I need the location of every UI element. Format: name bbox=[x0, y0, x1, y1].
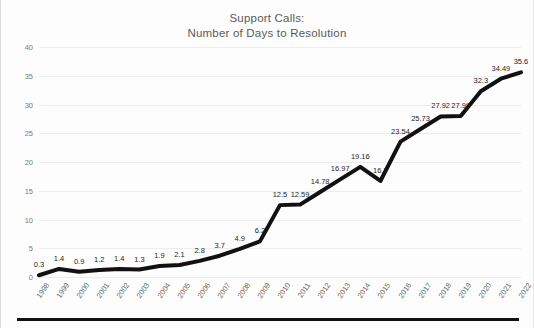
data-label-2021: 34.49 bbox=[492, 64, 511, 73]
data-label-2010: 12.5 bbox=[273, 190, 288, 199]
data-label-2015: 16.7 bbox=[373, 166, 388, 175]
y-axis-tick-20: 20 bbox=[25, 158, 33, 167]
x-axis-tick-2016: 2016 bbox=[396, 281, 413, 300]
y-axis-tick-25: 25 bbox=[25, 129, 33, 138]
gridline-0 bbox=[39, 277, 521, 278]
bottom-border-rule bbox=[17, 318, 519, 321]
data-label-2011: 12.59 bbox=[291, 190, 310, 199]
data-label-2014: 19.16 bbox=[351, 152, 370, 161]
x-axis-tick-2001: 2001 bbox=[95, 281, 112, 300]
x-axis-tick-2018: 2018 bbox=[436, 281, 453, 300]
data-label-2013: 16.97 bbox=[331, 164, 350, 173]
y-axis-tick-0: 0 bbox=[29, 273, 33, 282]
y-axis-tick-10: 10 bbox=[25, 215, 33, 224]
x-axis-tick-2006: 2006 bbox=[195, 281, 212, 300]
x-axis-tick-2011: 2011 bbox=[296, 281, 313, 299]
data-label-2000: 0.9 bbox=[74, 257, 84, 266]
data-label-2022: 35.6 bbox=[514, 57, 529, 66]
data-label-2003: 1.3 bbox=[134, 255, 144, 264]
data-label-2002: 1.4 bbox=[114, 254, 124, 263]
data-label-2005: 2.1 bbox=[174, 250, 184, 259]
data-label-2009: 6.2 bbox=[255, 226, 265, 235]
x-axis-tick-2021: 2021 bbox=[496, 281, 513, 300]
data-label-2001: 1.2 bbox=[94, 255, 104, 264]
data-label-2019: 27.99 bbox=[451, 101, 470, 110]
y-axis-tick-15: 15 bbox=[25, 186, 33, 195]
data-label-2006: 2.8 bbox=[194, 246, 204, 255]
chart-title-line-2: Number of Days to Resolution bbox=[1, 26, 533, 41]
y-axis-tick-30: 30 bbox=[25, 100, 33, 109]
x-axis-tick-2013: 2013 bbox=[336, 281, 353, 300]
x-axis-tick-2010: 2010 bbox=[275, 281, 292, 300]
chart-title-line-1: Support Calls: bbox=[1, 11, 533, 26]
x-axis-tick-2020: 2020 bbox=[476, 281, 493, 300]
data-label-2018: 27.92 bbox=[431, 101, 450, 110]
data-label-2016: 23.54 bbox=[391, 127, 410, 136]
x-axis-tick-2015: 2015 bbox=[376, 281, 393, 300]
y-axis-tick-35: 35 bbox=[25, 71, 33, 80]
data-label-1998: 0.3 bbox=[34, 260, 44, 269]
data-label-2017: 25.73 bbox=[411, 114, 430, 123]
data-label-2020: 32.3 bbox=[474, 76, 489, 85]
data-label-2012: 14.78 bbox=[311, 177, 330, 186]
data-label-2004: 1.9 bbox=[154, 251, 164, 260]
x-axis-tick-2014: 2014 bbox=[356, 281, 373, 300]
line-series bbox=[39, 47, 521, 277]
x-axis-tick-2002: 2002 bbox=[115, 281, 132, 300]
data-label-2008: 4.9 bbox=[235, 234, 245, 243]
x-axis-tick-1998: 1998 bbox=[34, 281, 51, 300]
y-axis-tick-5: 5 bbox=[29, 244, 33, 253]
x-axis-tick-2000: 2000 bbox=[75, 281, 92, 300]
x-axis-tick-2012: 2012 bbox=[316, 281, 333, 300]
x-axis-tick-2022: 2022 bbox=[516, 281, 533, 300]
x-axis-tick-2017: 2017 bbox=[416, 281, 433, 300]
data-label-1999: 1.4 bbox=[54, 254, 64, 263]
x-axis-tick-2019: 2019 bbox=[456, 281, 473, 300]
x-axis-tick-2004: 2004 bbox=[155, 281, 172, 300]
x-axis-tick-1999: 1999 bbox=[55, 281, 72, 300]
data-label-2007: 3.7 bbox=[215, 241, 225, 250]
x-axis-tick-2005: 2005 bbox=[175, 281, 192, 300]
chart-title: Support Calls: Number of Days to Resolut… bbox=[1, 11, 533, 41]
plot-area: 0510152025303540 0.31.40.91.21.41.31.92.… bbox=[39, 47, 521, 277]
x-axis-tick-2007: 2007 bbox=[215, 281, 232, 300]
x-axis-tick-2008: 2008 bbox=[235, 281, 252, 300]
y-axis-tick-40: 40 bbox=[25, 43, 33, 52]
chart-container: Support Calls: Number of Days to Resolut… bbox=[0, 0, 534, 328]
x-axis-tick-2003: 2003 bbox=[135, 281, 152, 300]
x-axis-tick-2009: 2009 bbox=[255, 281, 272, 300]
